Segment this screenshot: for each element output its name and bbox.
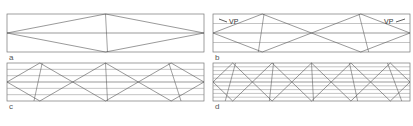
arrow-right-icon — [396, 19, 405, 22]
diagonal — [312, 82, 332, 101]
diagonal — [213, 63, 233, 82]
diagonal — [138, 63, 171, 82]
diagonal — [233, 63, 253, 82]
diagonal — [371, 82, 391, 101]
diagonal — [73, 82, 106, 101]
diagonal — [331, 82, 351, 101]
diagonal — [351, 63, 371, 82]
diagonal — [351, 82, 371, 101]
arrow-left-icon — [219, 19, 227, 22]
panel-label-a: a — [9, 54, 13, 62]
diagonal — [106, 82, 139, 101]
diagonal — [233, 82, 253, 101]
diagonal — [73, 63, 106, 82]
diagonal — [390, 82, 410, 101]
diagonal — [7, 63, 40, 82]
perspective-grid-figure: VPVP — [0, 0, 413, 126]
diagonal — [252, 82, 272, 101]
panel-label-d: d — [215, 103, 219, 111]
diagonal — [138, 82, 171, 101]
diagonal — [7, 82, 40, 101]
diagonal — [272, 82, 292, 101]
diagonal — [40, 82, 73, 101]
vanishing-point-left-label: VP — [229, 18, 239, 25]
diagonal — [312, 63, 332, 82]
diagonal — [292, 82, 312, 101]
diagonal — [171, 63, 204, 82]
diagonal — [252, 63, 272, 82]
diagonal — [331, 63, 351, 82]
panel-label-c: c — [9, 103, 13, 111]
diagonal — [371, 63, 391, 82]
panel-label-b: b — [215, 54, 219, 62]
diagonal — [7, 33, 106, 52]
diagonal — [272, 63, 292, 82]
vanishing-point-right-label: VP — [384, 18, 394, 25]
diagonal — [40, 63, 73, 82]
diagonal — [106, 33, 205, 52]
diagonal — [292, 63, 312, 82]
diagonal — [7, 14, 106, 33]
diagonal — [106, 63, 139, 82]
diagonal — [106, 14, 205, 33]
